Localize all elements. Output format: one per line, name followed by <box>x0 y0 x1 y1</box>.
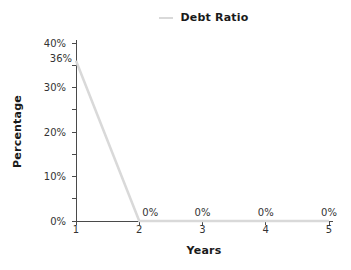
x-axis-tick-label: 2 <box>136 224 142 235</box>
y-axis-tick-label: 30% <box>44 82 66 93</box>
plot-area: 0%10%20%30%40%1234536%0%0%0%0% <box>0 0 351 270</box>
debt-ratio-chart: Debt Ratio Percentage 0%10%20%30%40%1234… <box>0 0 351 270</box>
data-point-label: 0% <box>142 207 158 218</box>
y-axis-tick-label: 40% <box>44 38 66 49</box>
x-axis-title: Years <box>76 244 332 257</box>
x-axis-tick-label: 3 <box>199 224 205 235</box>
data-point-label: 0% <box>258 207 274 218</box>
x-axis-tick-label: 4 <box>263 224 269 235</box>
x-axis-tick-label: 5 <box>326 224 332 235</box>
debt-ratio-line <box>76 61 329 221</box>
data-point-label: 0% <box>321 207 337 218</box>
y-axis-tick-label: 10% <box>44 171 66 182</box>
data-point-label: 36% <box>50 53 72 64</box>
x-axis-tick-label: 1 <box>73 224 79 235</box>
y-axis-tick-label: 0% <box>50 216 66 227</box>
y-axis-tick-label: 20% <box>44 127 66 138</box>
data-point-label: 0% <box>195 207 211 218</box>
